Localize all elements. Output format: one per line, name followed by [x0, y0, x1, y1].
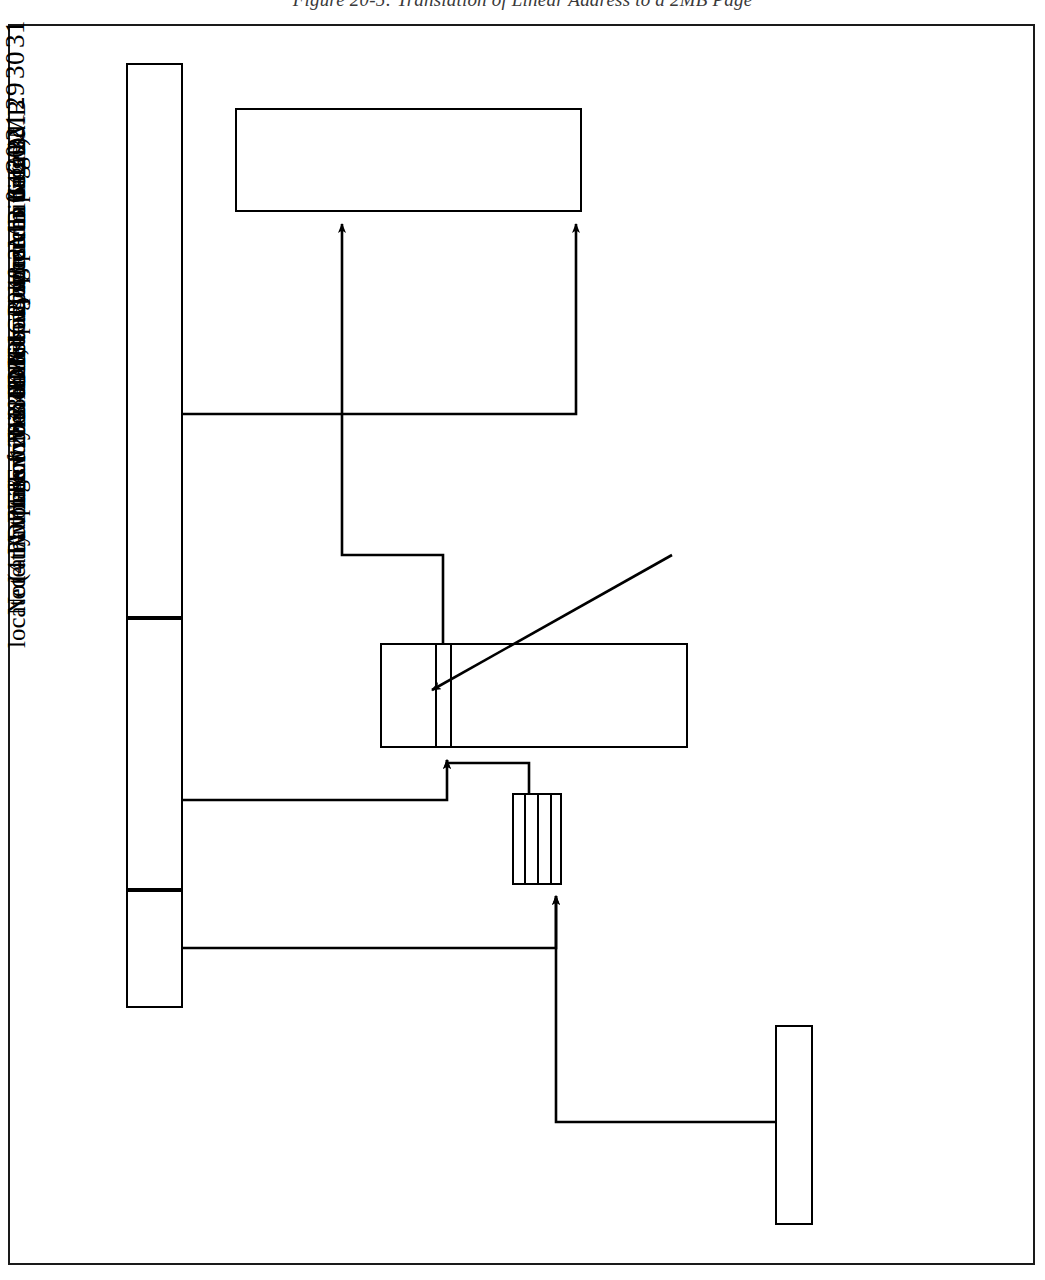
pdpt-entry-divider-3 [550, 795, 552, 883]
note-line4: located anywhere within the 64GB space. [0, 0, 33, 648]
figure-caption: Figure 20-5: Translation of Linear Addre… [0, 0, 1045, 11]
figure-page: Figure 20-5: Translation of Linear Addre… [0, 0, 1045, 1280]
pdpt-entry-divider-2 [537, 795, 539, 883]
address-field-pdpt-index [126, 890, 183, 1008]
structure-cr3 [775, 1025, 813, 1225]
address-field-page-offset [126, 63, 183, 618]
pdpt-entry-divider-1 [524, 795, 526, 883]
address-field-pd-index [126, 618, 183, 890]
page-directory-entry-divider-right [450, 645, 452, 746]
page-directory-entry-divider-left [435, 645, 437, 746]
structure-page-directory [380, 643, 688, 748]
structure-2mb-page [235, 108, 582, 212]
